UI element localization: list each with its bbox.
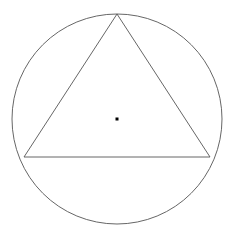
center-point-marker xyxy=(116,118,119,121)
geometry-diagram-svg xyxy=(0,0,235,240)
geometry-figure-canvas xyxy=(0,0,235,240)
